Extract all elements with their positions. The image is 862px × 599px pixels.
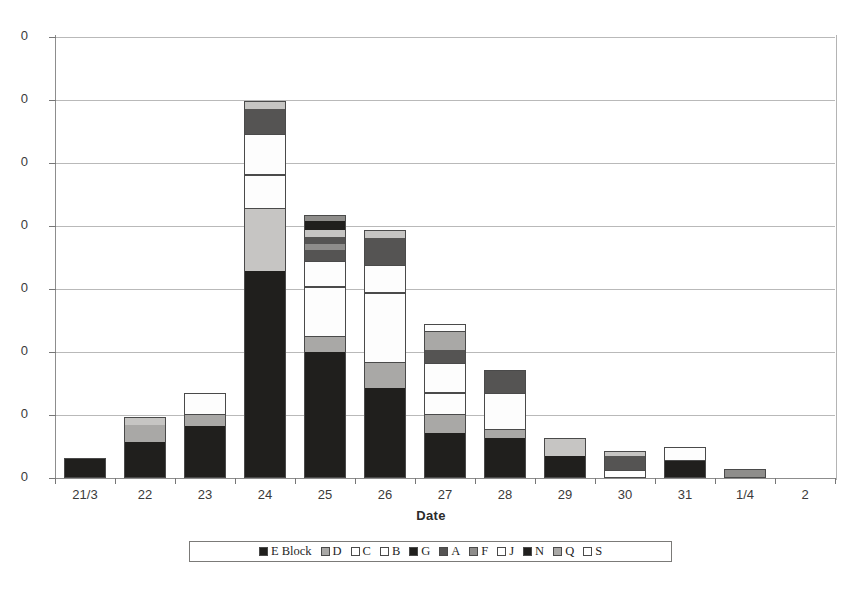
bar-segment[interactable] [484,393,526,430]
bar-segment[interactable] [484,430,526,438]
bar-stack[interactable] [664,447,706,478]
bar-segment[interactable] [244,175,286,209]
legend-item[interactable]: J [497,544,514,559]
legend-item[interactable]: N [523,544,544,559]
bar-segment[interactable] [184,393,226,415]
x-axis-label: 22 [115,487,175,502]
bar-segment[interactable] [364,293,406,363]
bar-stack[interactable] [724,469,766,478]
y-axis-label: 0 [0,343,28,358]
bar-segment[interactable] [64,458,106,478]
bar-segment[interactable] [244,109,286,134]
y-axis-label: 0 [0,469,28,484]
legend-item-label: D [333,544,342,559]
y-axis-label: 0 [0,28,28,43]
x-axis-tick [235,478,236,484]
x-axis-tick [295,478,296,484]
bar-stack[interactable] [124,417,166,478]
bar-segment[interactable] [664,461,706,478]
bar-segment[interactable] [304,352,346,478]
bar-segment[interactable] [124,425,166,442]
x-axis-label: 30 [595,487,655,502]
x-axis-title: Date [0,508,862,523]
bar-segment[interactable] [304,250,346,261]
bar-segment[interactable] [544,456,586,478]
x-axis-tick [55,478,56,484]
bar-segment[interactable] [244,134,286,175]
bar-stack[interactable] [544,438,586,478]
x-axis-tick [715,478,716,484]
bar-segment[interactable] [364,265,406,293]
bar-stack[interactable] [244,101,286,478]
bar-segment[interactable] [424,324,466,332]
x-axis-line [55,478,837,479]
y-axis-label: 0 [0,280,28,295]
bar-segment[interactable] [124,442,166,478]
bar-segment[interactable] [304,221,346,230]
bar-segment[interactable] [424,433,466,478]
bar-segment[interactable] [244,271,286,478]
bar-segment[interactable] [604,456,646,470]
bar-segment[interactable] [304,261,346,287]
bar-segment[interactable] [424,350,466,363]
bar-stack[interactable] [364,230,406,478]
bar-segment[interactable] [424,415,466,433]
bar-stack[interactable] [184,393,226,478]
bar-segment[interactable] [304,337,346,352]
bar-stack[interactable] [424,324,466,478]
bar-segment[interactable] [244,101,286,109]
bar-stack[interactable] [64,458,106,478]
bar-stack[interactable] [304,215,346,478]
bar-segment[interactable] [364,363,406,388]
bar-segment[interactable] [364,238,406,265]
bar-stack[interactable] [484,370,526,478]
legend-item[interactable]: E Block [259,544,312,559]
legend-item[interactable]: C [351,544,371,559]
legend-item[interactable]: B [380,544,400,559]
x-axis-tick [415,478,416,484]
x-axis-tick [355,478,356,484]
bar-segment[interactable] [484,438,526,478]
bar-segment[interactable] [424,363,466,393]
bar-stack[interactable] [604,451,646,478]
bar-segment[interactable] [544,438,586,456]
x-axis-tick [775,478,776,484]
legend-swatch-icon [259,547,268,556]
bar-segment[interactable] [304,237,346,244]
bar-segment[interactable] [304,230,346,237]
bar-segment[interactable] [484,370,526,393]
bar-segment[interactable] [664,447,706,461]
legend-item[interactable]: Q [553,544,574,559]
bar-segment[interactable] [304,287,346,337]
legend-swatch-icon [439,547,448,556]
legend-item-label: C [363,544,371,559]
x-axis-label: 27 [415,487,475,502]
bar-segment[interactable] [364,230,406,238]
legend-item-label: Q [565,544,574,559]
bar-segment[interactable] [184,415,226,426]
chart-legend: E BlockDCBGAFJNQS [189,541,672,562]
legend-item[interactable]: D [321,544,342,559]
bar-segment[interactable] [424,332,466,350]
bar-segment[interactable] [124,417,166,425]
bar-segment[interactable] [604,470,646,478]
legend-swatch-icon [523,547,532,556]
bar-segment[interactable] [244,209,286,271]
bar-segment[interactable] [424,393,466,415]
x-axis-label: 23 [175,487,235,502]
x-axis-label: 31 [655,487,715,502]
x-axis-tick [475,478,476,484]
legend-swatch-icon [321,547,330,556]
bar-segment[interactable] [184,426,226,478]
legend-swatch-icon [497,547,506,556]
legend-item[interactable]: A [439,544,460,559]
legend-item[interactable]: F [469,544,488,559]
x-axis-tick [175,478,176,484]
legend-item[interactable]: S [583,544,602,559]
legend-swatch-icon [553,547,562,556]
bar-segment[interactable] [364,388,406,478]
legend-item[interactable]: G [409,544,430,559]
bar-segment[interactable] [724,469,766,478]
stacked-bar-chart-figure: 00000000 21/3222324252627282930311/42 Da… [0,0,862,599]
x-axis-tick [595,478,596,484]
